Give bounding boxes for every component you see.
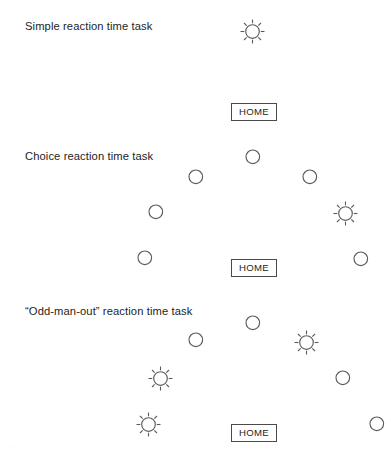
circle-target-icon[interactable] xyxy=(147,203,165,221)
reaction-time-task-figure: ... Simple reaction time taskHOMEChoice … xyxy=(0,0,391,454)
home-button-simple-reaction-time-task[interactable]: HOME xyxy=(231,103,277,121)
circle-target-icon[interactable] xyxy=(244,148,262,166)
circle-target-icon[interactable] xyxy=(136,249,154,267)
circle-target-icon[interactable] xyxy=(187,331,205,349)
task-label-odd-man-out-reaction-time-task: “Odd-man-out” reaction time task xyxy=(25,305,192,318)
sun-target-icon[interactable] xyxy=(293,329,320,356)
sun-target-icon[interactable] xyxy=(332,200,359,227)
sun-target-icon[interactable] xyxy=(239,18,266,45)
task-label-simple-reaction-time-task: Simple reaction time task xyxy=(25,20,152,33)
circle-target-icon[interactable] xyxy=(244,314,262,332)
home-button-odd-man-out-reaction-time-task[interactable]: HOME xyxy=(231,424,277,442)
bottom-edge-artifact: ... xyxy=(4,441,44,449)
circle-target-icon[interactable] xyxy=(301,168,319,186)
circle-target-icon[interactable] xyxy=(187,168,205,186)
circle-target-icon[interactable] xyxy=(352,250,370,268)
circle-target-icon[interactable] xyxy=(334,369,352,387)
sun-target-icon[interactable] xyxy=(147,365,174,392)
home-button-choice-reaction-time-task[interactable]: HOME xyxy=(231,259,277,277)
circle-target-icon[interactable] xyxy=(368,415,386,433)
task-label-choice-reaction-time-task: Choice reaction time task xyxy=(25,150,153,163)
sun-target-icon[interactable] xyxy=(135,411,162,438)
